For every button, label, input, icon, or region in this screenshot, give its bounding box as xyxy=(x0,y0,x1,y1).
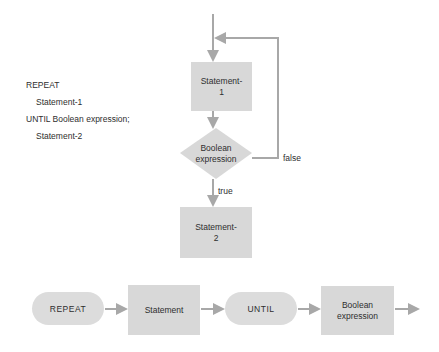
boolean-label-line2: expression xyxy=(337,311,378,322)
until-pill: UNTIL xyxy=(225,292,297,325)
boolean-expression-box: Boolean expression xyxy=(321,286,394,335)
repeat-pill: REPEAT xyxy=(32,292,104,325)
boolean-label-line1: Boolean xyxy=(337,300,378,311)
true-label: true xyxy=(218,186,233,196)
statement-2-box: Statement- 2 xyxy=(180,207,252,258)
condition-label-line2: expression xyxy=(190,154,242,165)
false-label: false xyxy=(283,153,301,163)
statement-2-label-line1: Statement- xyxy=(195,222,237,233)
statement-box: Statement xyxy=(128,285,200,335)
statement-1-box: Statement- 1 xyxy=(191,62,252,111)
condition-label: Boolean expression xyxy=(190,143,242,165)
statement-1-label-line1: Statement- xyxy=(201,76,243,87)
statement-1-label-line2: 1 xyxy=(201,87,243,98)
condition-label-line1: Boolean xyxy=(190,143,242,154)
statement-2-label-line2: 2 xyxy=(195,233,237,244)
